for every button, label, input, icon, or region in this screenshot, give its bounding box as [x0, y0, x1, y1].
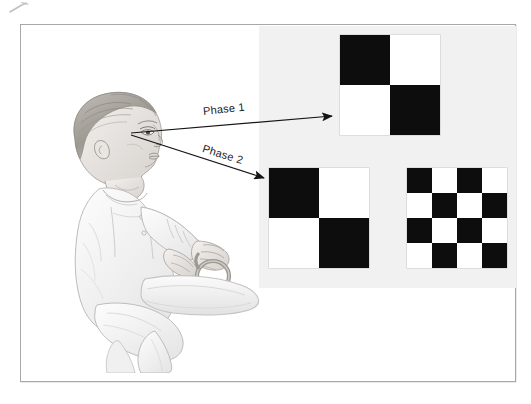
phase-1-arrow [131, 116, 332, 133]
figure-root: Phase 1 Phase 2 [0, 0, 531, 404]
figure-frame: Phase 1 Phase 2 [20, 24, 516, 382]
arrow-layer [21, 25, 517, 383]
scan-artifact-mark [8, 1, 30, 15]
